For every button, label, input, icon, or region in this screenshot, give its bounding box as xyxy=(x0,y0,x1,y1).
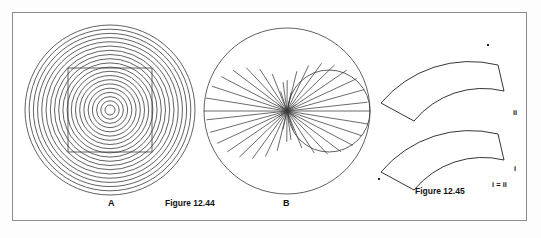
panel-b-spokes xyxy=(204,63,370,158)
annotation-lower-arc: i xyxy=(514,164,516,173)
page-canvas: A B Figure 12.44 Figure 12.45 ii i i = i… xyxy=(0,0,541,238)
annotation-equality: i = ii xyxy=(492,180,507,189)
panel-b-radial-spokes xyxy=(204,28,370,194)
panel-b-label: B xyxy=(283,198,290,208)
marker-dot-left xyxy=(378,178,380,180)
panel-a-label: A xyxy=(108,198,115,208)
figure-caption-12-45: Figure 12.45 xyxy=(415,186,465,196)
curved-band-upper xyxy=(381,62,504,121)
marker-dot-top xyxy=(487,44,489,46)
annotation-upper-arc: ii xyxy=(513,108,517,117)
curved-band-lower xyxy=(381,131,504,190)
panel-a-square-overlay xyxy=(68,68,152,152)
figures-illustration xyxy=(0,0,541,238)
figure-caption-12-44: Figure 12.44 xyxy=(165,198,215,208)
panel-a-concentric-circles xyxy=(25,25,195,195)
panel-c-curved-bands xyxy=(381,62,504,190)
